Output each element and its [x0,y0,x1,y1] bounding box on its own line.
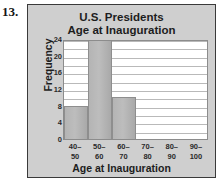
x-axis-title: Age at Inauguration [28,162,215,174]
y-axis-tick-label: 12 [42,86,62,94]
y-axis-tick-label: 8 [42,103,62,111]
y-axis-tick-label: 24 [42,36,62,44]
x-axis-tick-labels: 40–5050–6060–7070–8080–9090–100 [63,142,208,164]
chart-screenshot: 13. U.S. Presidents Age at Inauguration … [0,0,221,183]
bar [64,106,88,139]
y-axis-tick-label: 0 [42,136,62,144]
y-axis-tick-label: 4 [42,119,62,127]
x-axis-tick-label: 80–90 [160,142,184,161]
y-axis-tick-labels: 04812162024 [42,40,62,142]
x-axis-tick-label: 60–70 [111,142,135,161]
problem-number-label: 13. [2,4,18,20]
y-axis-tick-label: 16 [42,69,62,77]
x-axis-tick-label: 50–60 [87,142,111,161]
chart-title-line-1: U.S. Presidents [28,11,215,24]
bars-group [64,41,207,139]
x-axis-tick-label: 70–80 [136,142,160,161]
chart-figure-panel: U.S. Presidents Age at Inauguration Freq… [27,4,216,178]
x-axis-tick-label: 40–50 [63,142,87,161]
plot-area [63,40,208,140]
bar [88,40,112,139]
chart-title: U.S. Presidents Age at Inauguration [28,11,215,36]
x-axis-tick-label: 90–100 [184,142,208,161]
y-axis-tick-label: 20 [42,53,62,61]
bar [112,97,136,139]
